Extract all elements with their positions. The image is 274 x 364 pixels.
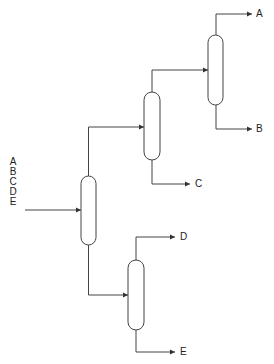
product-label-a: A xyxy=(256,9,263,19)
stream-col3-top xyxy=(216,14,252,35)
product-label-c: C xyxy=(195,179,202,189)
column-2 xyxy=(144,92,160,160)
stream-col4-bottom xyxy=(136,330,175,352)
process-flow-diagram xyxy=(0,0,274,364)
column-4 xyxy=(128,260,144,330)
stream-col2-bottom xyxy=(152,160,190,184)
stream-col3-bottom xyxy=(216,105,252,129)
column-1 xyxy=(81,176,96,245)
feed-components: A B C D E xyxy=(9,157,17,207)
feed-label-e: E xyxy=(9,197,17,207)
stream-col1-bottom xyxy=(89,245,129,295)
stream-col1-top xyxy=(89,127,145,176)
product-label-b: B xyxy=(256,124,263,134)
product-label-e: E xyxy=(180,347,187,357)
stream-col2-top xyxy=(152,70,208,92)
column-3 xyxy=(208,35,223,105)
product-label-d: D xyxy=(180,232,187,242)
stream-col4-top xyxy=(136,237,175,260)
